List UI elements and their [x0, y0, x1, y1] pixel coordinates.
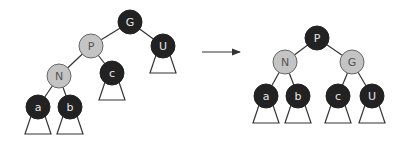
- node-N-red: N: [47, 64, 71, 88]
- svg-text:b: b: [67, 101, 74, 114]
- node-P-red: P: [79, 34, 103, 58]
- svg-text:N: N: [55, 70, 63, 83]
- node-a-black: a: [26, 95, 50, 119]
- svg-text:G: G: [348, 56, 357, 69]
- svg-text:U: U: [159, 40, 167, 53]
- node-c-black: c: [326, 84, 350, 108]
- svg-text:G: G: [126, 16, 135, 29]
- rotation-diagram: GPUNcabPNGabcU: [0, 0, 407, 143]
- node-c-black: c: [100, 61, 124, 85]
- node-P-black: P: [305, 26, 329, 50]
- node-a-black: a: [254, 84, 278, 108]
- node-U-black: U: [360, 84, 384, 108]
- node-b-black: b: [286, 84, 310, 108]
- node-U-black: U: [151, 34, 175, 58]
- svg-text:b: b: [295, 90, 302, 103]
- svg-text:U: U: [368, 90, 376, 103]
- node-G-red: G: [340, 50, 364, 74]
- svg-text:c: c: [335, 90, 341, 103]
- node-b-black: b: [58, 95, 82, 119]
- node-G-black: G: [118, 10, 142, 34]
- svg-text:N: N: [281, 56, 289, 69]
- svg-text:a: a: [35, 101, 42, 114]
- svg-text:a: a: [263, 90, 270, 103]
- svg-text:P: P: [314, 32, 321, 45]
- svg-text:P: P: [88, 40, 95, 53]
- node-N-red: N: [273, 50, 297, 74]
- svg-text:c: c: [109, 67, 115, 80]
